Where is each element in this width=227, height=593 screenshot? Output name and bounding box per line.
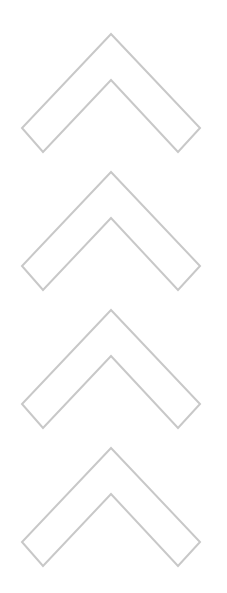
chevron-up-icon-2 bbox=[22, 172, 200, 290]
chevron-up-icon-3 bbox=[22, 310, 200, 428]
chevron-up-icon-1 bbox=[22, 34, 200, 152]
chevron-stack-graphic bbox=[0, 0, 227, 593]
chevron-stack bbox=[0, 0, 227, 593]
chevron-up-icon-4 bbox=[22, 448, 200, 566]
